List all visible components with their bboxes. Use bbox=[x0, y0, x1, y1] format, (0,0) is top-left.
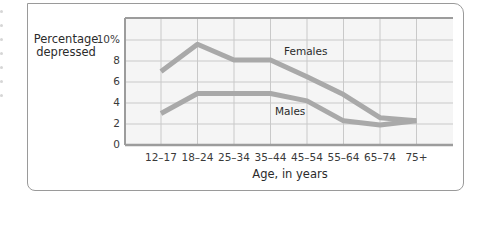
series-label-females: Females bbox=[284, 45, 327, 57]
x-axis-label: Age, in years bbox=[230, 167, 350, 181]
x-tick-label: 55–64 bbox=[324, 151, 364, 163]
x-tick-label: 18–24 bbox=[178, 151, 218, 163]
series-label-males: Males bbox=[275, 105, 305, 117]
x-tick-label: 12–17 bbox=[141, 151, 181, 163]
x-tick-label: 25–34 bbox=[214, 151, 254, 163]
x-tick-label: 75+ bbox=[397, 151, 437, 163]
x-tick-label: 45–54 bbox=[287, 151, 327, 163]
x-tick-label: 35–44 bbox=[251, 151, 291, 163]
x-tick-label: 65–74 bbox=[360, 151, 400, 163]
